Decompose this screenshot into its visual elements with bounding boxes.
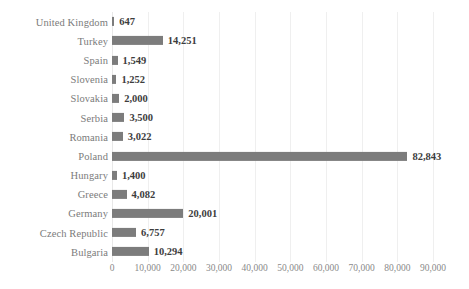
x-axis: 010,00020,00030,00040,00050,00060,00070,…: [112, 263, 433, 283]
bar[interactable]: [112, 94, 119, 103]
bar-value-label: 647: [114, 16, 135, 27]
bar-row: United Kingdom647: [0, 12, 469, 31]
category-label: Slovenia: [70, 74, 108, 85]
bar[interactable]: [112, 247, 149, 256]
bar-value-label: 2,000: [119, 93, 148, 104]
bar-track: 10,294: [112, 242, 469, 261]
bar-track: 20,001: [112, 204, 469, 223]
x-tick-label: 10,000: [135, 263, 161, 273]
bar-track: 4,082: [112, 185, 469, 204]
category-label: Spain: [84, 54, 108, 65]
bar-track: 3,022: [112, 127, 469, 146]
bar-row: Czech Republic6,757: [0, 223, 469, 242]
bar-row: Slovakia2,000: [0, 89, 469, 108]
bar-value-label: 3,500: [124, 112, 153, 123]
bar-track: 647: [112, 12, 469, 31]
bar-row: Hungary1,400: [0, 166, 469, 185]
bar-value-label: 14,251: [163, 35, 197, 46]
x-tick-label: 80,000: [384, 263, 410, 273]
bar[interactable]: [112, 36, 163, 45]
category-label: Czech Republic: [40, 227, 108, 238]
category-label: Slovakia: [70, 93, 108, 104]
bar[interactable]: [112, 190, 127, 199]
bar-value-label: 1,252: [116, 74, 145, 85]
category-label: Greece: [78, 189, 108, 200]
bar-track: 1,400: [112, 166, 469, 185]
category-label: Serbia: [81, 112, 108, 123]
bar-row: Poland82,843: [0, 146, 469, 165]
x-tick-label: 70,000: [349, 263, 375, 273]
bar-value-label: 3,022: [123, 131, 152, 142]
x-tick-label: 40,000: [242, 263, 268, 273]
bar-row: Bulgaria10,294: [0, 242, 469, 261]
x-tick-label: 60,000: [313, 263, 339, 273]
bar-row: Spain1,549: [0, 50, 469, 69]
category-label: Germany: [68, 208, 108, 219]
bar-value-label: 6,757: [136, 227, 165, 238]
bar[interactable]: [112, 113, 124, 122]
x-tick-label: 30,000: [206, 263, 232, 273]
bar-row: Serbia3,500: [0, 108, 469, 127]
category-label: Turkey: [77, 35, 108, 46]
bar-rows: United Kingdom647Turkey14,251Spain1,549S…: [0, 12, 469, 262]
category-label: Poland: [78, 150, 108, 161]
bar[interactable]: [112, 151, 407, 160]
bar-value-label: 1,549: [118, 54, 147, 65]
bar-track: 82,843: [112, 146, 469, 165]
bar-track: 6,757: [112, 223, 469, 242]
bar-value-label: 4,082: [127, 189, 156, 200]
bar-track: 3,500: [112, 108, 469, 127]
x-tick-label: 20,000: [170, 263, 196, 273]
bar-row: Slovenia1,252: [0, 70, 469, 89]
bar-row: Turkey14,251: [0, 31, 469, 50]
bar-track: 1,549: [112, 50, 469, 69]
category-label: Bulgaria: [71, 246, 108, 257]
bar-value-label: 10,294: [149, 246, 183, 257]
bar-track: 1,252: [112, 70, 469, 89]
x-tick-label: 50,000: [277, 263, 303, 273]
category-label: Romania: [69, 131, 108, 142]
bar-chart: United Kingdom647Turkey14,251Spain1,549S…: [0, 0, 469, 289]
bar-track: 14,251: [112, 31, 469, 50]
category-label: United Kingdom: [36, 16, 108, 27]
bar-row: Germany20,001: [0, 204, 469, 223]
bar-row: Greece4,082: [0, 185, 469, 204]
category-label: Hungary: [71, 170, 108, 181]
bar-value-label: 1,400: [117, 170, 146, 181]
x-tick-label: 90,000: [420, 263, 446, 273]
bar[interactable]: [112, 209, 183, 218]
bar-row: Romania3,022: [0, 127, 469, 146]
bar-value-label: 82,843: [407, 150, 441, 161]
bar[interactable]: [112, 132, 123, 141]
bar-value-label: 20,001: [183, 208, 217, 219]
x-tick-label: 0: [110, 263, 115, 273]
bar-track: 2,000: [112, 89, 469, 108]
bar[interactable]: [112, 228, 136, 237]
